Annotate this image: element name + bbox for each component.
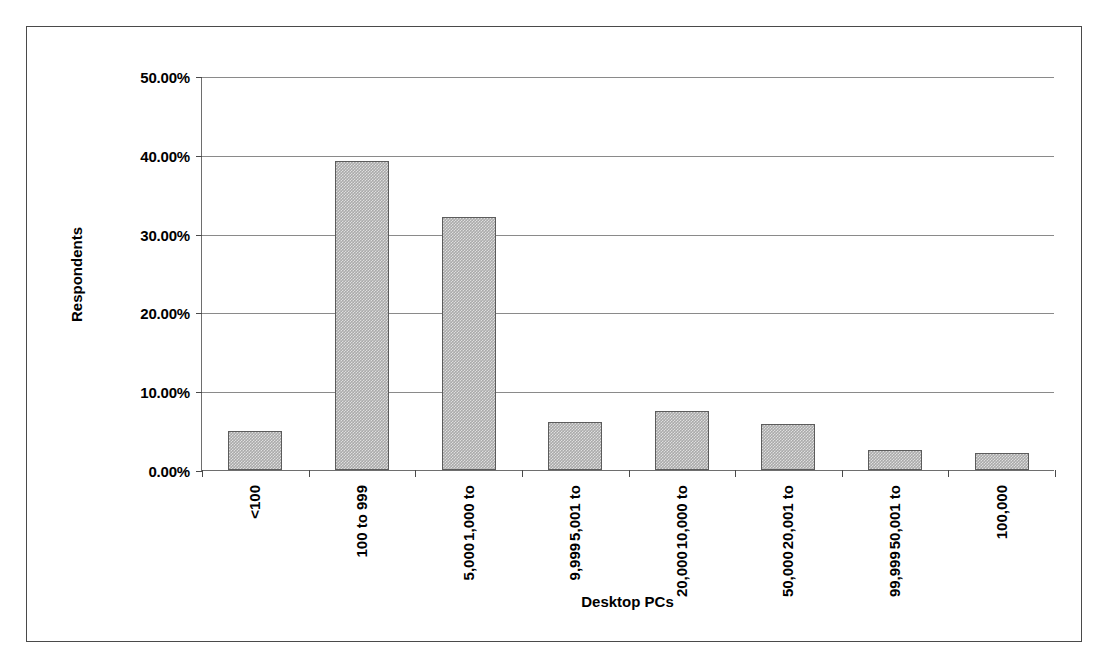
bar-slot bbox=[948, 77, 1055, 470]
x-axis-tick-label: 1,000 to5,000 bbox=[459, 485, 476, 580]
y-axis-title-label: Respondents bbox=[68, 226, 85, 321]
x-label-slot: 20,001 to50,000 bbox=[734, 479, 841, 597]
bar-slot bbox=[842, 77, 949, 470]
x-axis-tick bbox=[202, 470, 203, 477]
x-axis-tick-label: <100 bbox=[246, 485, 263, 519]
x-axis-tick bbox=[309, 470, 310, 477]
y-axis-tick-label: 30.00% bbox=[140, 226, 190, 243]
x-label-slot: 5,001 to9,999 bbox=[521, 479, 628, 597]
y-axis-tick-label: 0.00% bbox=[148, 463, 190, 480]
bar[interactable] bbox=[761, 424, 815, 470]
x-axis-tick-label-line: <100 bbox=[246, 485, 263, 519]
x-axis-tick-label-line: 5,001 to bbox=[566, 485, 583, 541]
bar[interactable] bbox=[228, 431, 282, 470]
x-label-slot: 10,000 to20,000 bbox=[628, 479, 735, 597]
x-axis-tick-label-line: 50,000 bbox=[779, 551, 796, 597]
plot-area: 0.00%10.00%20.00%30.00%40.00%50.00% bbox=[201, 77, 1054, 471]
y-axis-tick-label: 10.00% bbox=[140, 384, 190, 401]
x-axis-tick bbox=[735, 470, 736, 477]
y-axis-tick-label: 50.00% bbox=[140, 69, 190, 86]
x-axis-tick bbox=[629, 470, 630, 477]
x-axis-tick bbox=[522, 470, 523, 477]
x-label-slot: 1,000 to5,000 bbox=[414, 479, 521, 597]
bar-slot bbox=[415, 77, 522, 470]
x-axis-tick-label-line: 1,000 to bbox=[459, 485, 476, 541]
x-axis-tick-label-line: 100,000 bbox=[992, 485, 1009, 539]
y-axis-tick-label: 20.00% bbox=[140, 305, 190, 322]
x-axis-tick-label: 100,000 bbox=[992, 485, 1009, 539]
x-axis-tick-label-line: 9,999 bbox=[566, 543, 583, 581]
x-axis-tick-label: 5,001 to9,999 bbox=[566, 485, 583, 580]
chart-frame: Respondents 0.00%10.00%20.00%30.00%40.00… bbox=[26, 26, 1082, 642]
x-label-slot: 100,000 bbox=[947, 479, 1054, 597]
x-axis-tick-label: 20,001 to50,000 bbox=[779, 485, 796, 597]
x-axis-tick bbox=[1055, 470, 1056, 477]
bar[interactable] bbox=[548, 422, 602, 470]
x-axis-tick-label-line: 5,000 bbox=[459, 543, 476, 581]
bar-slot bbox=[629, 77, 736, 470]
x-axis-tick-label: 10,000 to20,000 bbox=[672, 485, 689, 597]
y-axis-tick-label: 40.00% bbox=[140, 147, 190, 164]
x-axis-tick-label-line: 99,999 bbox=[886, 551, 903, 597]
bar[interactable] bbox=[868, 450, 922, 470]
y-axis-title: Respondents bbox=[65, 77, 87, 471]
x-axis-tick-label-line: 10,000 to bbox=[672, 485, 689, 549]
x-label-slot: 100 to 999 bbox=[308, 479, 415, 597]
x-label-slot: 50,001 to99,999 bbox=[841, 479, 948, 597]
bar-slot bbox=[735, 77, 842, 470]
bar[interactable] bbox=[975, 453, 1029, 470]
x-axis-tick-label-line: 20,000 bbox=[672, 551, 689, 597]
x-axis-tick-label: 100 to 999 bbox=[352, 485, 369, 558]
x-axis-tick bbox=[415, 470, 416, 477]
x-axis-tick bbox=[948, 470, 949, 477]
x-axis-tick-label-line: 50,001 to bbox=[886, 485, 903, 549]
bar[interactable] bbox=[655, 411, 709, 470]
x-axis-tick-label: 50,001 to99,999 bbox=[886, 485, 903, 597]
bar-slot bbox=[309, 77, 416, 470]
x-axis-tick-label-line: 20,001 to bbox=[779, 485, 796, 549]
x-axis-title: Desktop PCs bbox=[201, 593, 1054, 610]
x-axis-tick-label-line: 100 to 999 bbox=[352, 485, 369, 558]
bar-slot bbox=[202, 77, 309, 470]
bar-slot bbox=[522, 77, 629, 470]
bar[interactable] bbox=[442, 217, 496, 470]
x-label-slot: <100 bbox=[201, 479, 308, 597]
x-axis-tick-labels: <100100 to 9991,000 to5,0005,001 to9,999… bbox=[201, 479, 1054, 597]
bar[interactable] bbox=[335, 161, 389, 470]
x-axis-tick bbox=[842, 470, 843, 477]
